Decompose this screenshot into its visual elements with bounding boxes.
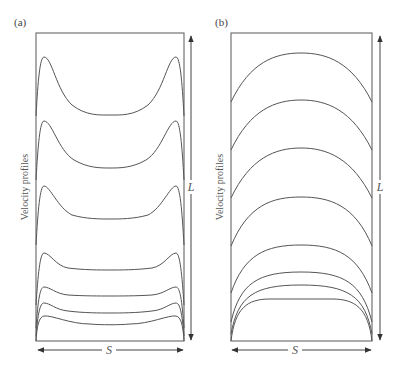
- profile-curve: [231, 148, 372, 198]
- profile-curve: [36, 287, 184, 328]
- panel-a-length-label: L: [187, 180, 195, 194]
- figure-canvas: (a) Velocity profiles L S (b) Velocity p…: [0, 0, 403, 371]
- panel-a-y-axis-label: Velocity profiles: [19, 154, 30, 220]
- profile-curve: [231, 197, 372, 246]
- panel-b-label: (b): [215, 16, 228, 29]
- profile-curve: [231, 272, 372, 322]
- profile-curve: [36, 121, 184, 180]
- panel-a-width-label: S: [106, 343, 112, 357]
- profile-curve: [231, 53, 372, 102]
- profile-curve: [36, 253, 184, 305]
- profile-curve: [231, 245, 372, 293]
- profile-curve: [36, 316, 184, 341]
- profile-curve: [36, 303, 184, 336]
- panel-b-profiles: [231, 53, 372, 341]
- profile-curve: [36, 186, 184, 245]
- panel-a-profiles: [36, 57, 184, 341]
- panel-a-label: (a): [14, 16, 27, 29]
- profile-curve: [231, 299, 372, 341]
- panel-b: (b) Velocity profiles L S: [214, 16, 385, 357]
- profile-curve: [231, 285, 372, 334]
- panel-b-length-label: L: [376, 180, 384, 194]
- profile-curve: [36, 57, 184, 116]
- panel-b-width-label: S: [292, 343, 298, 357]
- profile-curve: [231, 100, 372, 150]
- panel-a: (a) Velocity profiles L S: [14, 16, 196, 357]
- panel-b-y-axis-label: Velocity profiles: [214, 154, 225, 220]
- panel-a-channel-box: [36, 33, 184, 341]
